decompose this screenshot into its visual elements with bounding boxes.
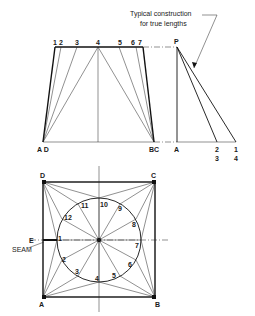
svg-text:3: 3 <box>215 155 219 162</box>
plan-view: D C A B E SEAM 1 2 3 4 5 6 7 8 9 10 11 1… <box>12 166 170 312</box>
svg-text:7: 7 <box>135 242 139 249</box>
svg-text:A: A <box>39 301 44 308</box>
svg-text:1: 1 <box>58 235 62 242</box>
left-edge <box>43 47 55 142</box>
svg-text:3: 3 <box>75 268 79 275</box>
svg-text:2: 2 <box>62 256 66 263</box>
svg-text:4: 4 <box>96 39 100 46</box>
svg-text:9: 9 <box>118 205 122 212</box>
svg-text:1: 1 <box>53 39 57 46</box>
svg-text:12: 12 <box>64 214 72 221</box>
svg-text:4: 4 <box>234 155 238 162</box>
svg-text:A: A <box>174 146 179 153</box>
annotation-line1: Typical construction <box>130 10 192 18</box>
annotation-line2: for true lengths <box>140 20 187 28</box>
svg-text:8: 8 <box>132 221 136 228</box>
svg-text:SEAM: SEAM <box>12 246 32 253</box>
svg-text:7: 7 <box>138 39 142 46</box>
svg-text:10: 10 <box>100 201 108 208</box>
true-length-construction-diagram: Typical construction for true lengths 1 … <box>0 0 255 316</box>
svg-text:B: B <box>155 301 160 308</box>
svg-text:E: E <box>29 237 34 244</box>
svg-text:2: 2 <box>59 39 63 46</box>
svg-text:1: 1 <box>234 146 238 153</box>
svg-text:4: 4 <box>95 275 99 282</box>
svg-text:3: 3 <box>75 39 79 46</box>
svg-text:5: 5 <box>112 272 116 279</box>
svg-text:A D: A D <box>37 146 49 153</box>
svg-text:P: P <box>174 38 179 45</box>
svg-text:5: 5 <box>118 39 122 46</box>
svg-text:6: 6 <box>131 39 135 46</box>
elevation-view: Typical construction for true lengths 1 … <box>37 10 238 162</box>
svg-text:6: 6 <box>128 261 132 268</box>
svg-text:BC: BC <box>149 146 159 153</box>
svg-text:C: C <box>151 172 156 179</box>
svg-text:11: 11 <box>81 202 89 209</box>
annotation-leader <box>194 15 217 68</box>
svg-text:2: 2 <box>215 146 219 153</box>
svg-text:D: D <box>40 172 45 179</box>
